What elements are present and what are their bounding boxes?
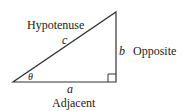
opposite-label: Opposite: [133, 44, 176, 58]
side-c-label: c: [62, 33, 68, 47]
hypotenuse-label: Hypotenuse: [27, 18, 84, 32]
right-angle-marker: [108, 74, 116, 82]
adjacent-label: Adjacent: [52, 96, 96, 110]
angle-theta-label: θ: [28, 71, 33, 82]
right-triangle-diagram: Hypotenuse c b Opposite θ a Adjacent: [0, 0, 183, 111]
side-a-label: a: [67, 82, 73, 96]
side-b-label: b: [119, 44, 125, 58]
